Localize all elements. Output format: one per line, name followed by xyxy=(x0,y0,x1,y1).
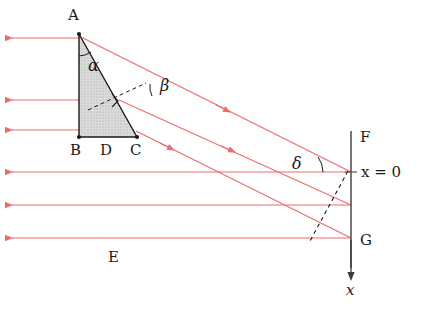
vertex-a-dot xyxy=(77,32,81,36)
beta-angle-arc xyxy=(150,84,152,96)
refracted-ray-arrowheads xyxy=(160,105,235,152)
label-screen-f: F xyxy=(360,130,370,145)
refracted-arrow-3 xyxy=(160,143,174,150)
diagram-canvas xyxy=(0,0,426,313)
label-angle-beta: β xyxy=(160,78,169,94)
label-angle-delta: δ xyxy=(292,156,302,172)
label-origin: x = 0 xyxy=(361,165,401,180)
incident-rays xyxy=(12,38,351,238)
vertex-c-dot xyxy=(135,135,139,139)
label-angle-alpha: α xyxy=(88,58,99,74)
label-region-e: E xyxy=(108,250,119,265)
refracted-arrow-2 xyxy=(221,146,235,152)
label-screen-g: G xyxy=(360,233,372,248)
label-x-axis: x xyxy=(346,283,354,298)
delta-angle-arc xyxy=(318,157,323,172)
vertex-b-dot xyxy=(77,135,81,139)
refracted-arrow-1 xyxy=(216,105,230,112)
optics-diagram: A B D C E α β δ F G x = 0 x xyxy=(0,0,426,313)
prism-triangle xyxy=(79,34,137,137)
refracted-rays xyxy=(83,38,351,238)
label-base-b: B xyxy=(70,143,81,158)
wavefront-dashed xyxy=(310,171,348,241)
label-apex-a: A xyxy=(68,8,79,23)
refracted-ray-2 xyxy=(119,100,351,205)
label-base-c: C xyxy=(130,143,141,158)
label-base-d: D xyxy=(100,143,112,158)
